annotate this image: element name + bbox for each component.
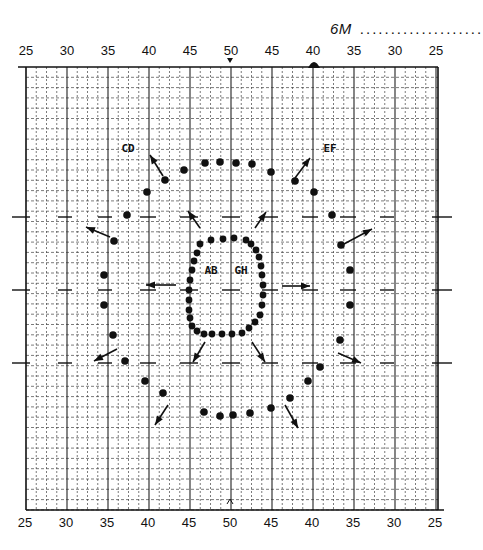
outer-ring-point <box>141 377 149 385</box>
region-label-ef: EF <box>323 142 336 155</box>
inner-ring-point <box>229 331 236 338</box>
data-points <box>100 158 354 420</box>
x-tick-label-bottom: 45 <box>182 515 196 530</box>
outer-ring-point <box>310 188 318 196</box>
outer-ring-point <box>337 241 345 249</box>
outer-ring-point <box>229 411 237 419</box>
inner-ring-point <box>194 328 201 335</box>
outer-ring-point <box>346 301 354 309</box>
inner-ring-point <box>253 247 260 254</box>
inner-ring-point <box>209 331 216 338</box>
grid <box>12 67 452 510</box>
x-tick-label-top: 40 <box>142 43 156 58</box>
arrow-head-icon <box>258 212 266 221</box>
arrow-head-icon <box>146 282 155 289</box>
outer-ring-point <box>328 211 336 219</box>
fixation-marker-icon <box>308 62 320 68</box>
x-tick-label-top: 45 <box>183 43 197 58</box>
outer-ring-point <box>291 177 299 185</box>
inner-ring-point <box>260 292 267 299</box>
arrow-head-icon <box>291 418 298 428</box>
arrow-head-icon <box>188 211 196 220</box>
outer-ring-point <box>286 394 294 402</box>
inner-ring-point <box>187 315 194 322</box>
inner-ring-point <box>186 307 193 314</box>
outer-ring-point <box>336 336 344 344</box>
inner-ring-point <box>189 323 196 330</box>
outer-ring-point <box>201 159 209 167</box>
inner-ring-point <box>248 241 255 248</box>
x-tick-label-top: 35 <box>101 43 115 58</box>
inner-ring-point <box>197 241 204 248</box>
x-tick-label-bottom: 30 <box>387 515 401 530</box>
x-tick-label-top: 30 <box>388 43 402 58</box>
inner-ring-point <box>258 263 265 270</box>
inner-ring-point <box>256 254 263 261</box>
outer-ring-point <box>200 408 208 416</box>
x-tick-label-bottom: 50 <box>223 515 237 530</box>
region-label-cd: CD <box>121 142 134 155</box>
arrow-head-icon <box>94 354 104 361</box>
inner-ring-point <box>220 236 227 243</box>
inner-ring-point <box>219 331 226 338</box>
x-tick-label-bottom: 40 <box>141 515 155 530</box>
inner-ring-point <box>189 267 196 274</box>
inner-ring-point <box>259 272 266 279</box>
outer-ring-point <box>246 409 254 417</box>
inner-ring-point <box>252 319 259 326</box>
inner-ring-point <box>246 325 253 332</box>
x-tick-label-bottom: 25 <box>18 515 32 530</box>
outer-ring-point <box>110 237 118 245</box>
x-tick-label-bottom: 35 <box>346 515 360 530</box>
outer-ring-point <box>180 166 188 174</box>
x-tick-label-top: 35 <box>347 43 361 58</box>
outer-ring-point <box>121 357 129 365</box>
x-tick-label-top: 25 <box>19 43 33 58</box>
x-tick-label-bottom: 25 <box>428 515 442 530</box>
outer-ring-point <box>304 377 312 385</box>
outer-ring-point <box>346 266 354 274</box>
x-tick-label-top: 30 <box>60 43 74 58</box>
region-label-ab: AB <box>204 264 217 277</box>
inner-ring-point <box>208 237 215 244</box>
arrow-head-icon <box>351 356 361 363</box>
inner-ring-point <box>231 235 238 242</box>
region-label-gh: GH <box>234 264 247 277</box>
inner-ring-point <box>186 297 193 304</box>
outer-ring-point <box>267 404 275 412</box>
arrow-head-icon <box>193 352 201 362</box>
outer-ring-point <box>109 331 117 339</box>
outer-ring-point <box>143 188 151 196</box>
inner-ring-point <box>191 258 198 265</box>
outer-ring-point <box>267 168 275 176</box>
x-tick-label-top: 25 <box>429 43 443 58</box>
x-tick-label-top: 45 <box>265 43 279 58</box>
outer-ring-point <box>216 412 224 420</box>
inner-ring-point <box>194 250 201 257</box>
center-marker-top-icon <box>227 58 233 63</box>
inner-ring-point <box>201 331 208 338</box>
inner-ring-point <box>260 282 267 289</box>
outer-ring-point <box>216 158 224 166</box>
outer-ring-point <box>159 389 167 397</box>
x-tick-label-bottom: 45 <box>264 515 278 530</box>
x-tick-label-bottom: 30 <box>59 515 73 530</box>
outer-ring-point <box>232 159 240 167</box>
arrow-head-icon <box>362 229 372 236</box>
x-tick-label-top: 50 <box>224 43 238 58</box>
inner-ring-point <box>186 287 193 294</box>
inner-ring-point <box>239 330 246 337</box>
outer-ring-point <box>161 176 169 184</box>
inner-ring-point <box>257 312 264 319</box>
outer-ring-point <box>100 271 108 279</box>
x-tick-label-bottom: 35 <box>100 515 114 530</box>
outer-ring-point <box>100 301 108 309</box>
arrow-head-icon <box>257 353 265 362</box>
x-tick-label-top: 40 <box>306 43 320 58</box>
arrows <box>86 155 372 428</box>
inner-ring-point <box>259 302 266 309</box>
x-tick-label-bottom: 40 <box>305 515 319 530</box>
outer-ring-point <box>248 160 256 168</box>
outer-ring-point <box>123 211 131 219</box>
inner-ring-point <box>187 277 194 284</box>
